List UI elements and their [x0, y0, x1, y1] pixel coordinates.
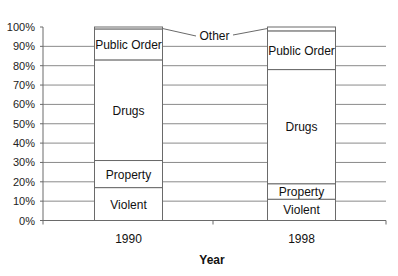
segment-label: Drugs — [112, 104, 144, 118]
x-category-label: 1990 — [115, 232, 142, 246]
bar-segment-other — [268, 27, 336, 31]
leader-line — [233, 29, 268, 36]
y-tick-label: 90% — [13, 40, 35, 52]
segment-label: Public Order — [95, 38, 162, 52]
y-tick-label: 100% — [7, 21, 35, 33]
y-tick-label: 0% — [19, 215, 35, 227]
y-axis: 0%10%20%30%40%50%60%70%80%90%100% — [7, 21, 43, 227]
x-category-label: 1998 — [288, 232, 315, 246]
y-tick-label: 70% — [13, 79, 35, 91]
stacked-bar-chart: 0%10%20%30%40%50%60%70%80%90%100%1990199… — [0, 0, 398, 276]
segment-label: Violent — [283, 203, 320, 217]
y-tick-label: 40% — [13, 137, 35, 149]
x-axis-title: Year — [199, 253, 225, 267]
leader-line — [163, 29, 197, 37]
chart-canvas: 0%10%20%30%40%50%60%70%80%90%100%1990199… — [0, 0, 398, 276]
bar-1990: ViolentPropertyDrugsPublic Order — [95, 27, 163, 221]
y-tick-label: 50% — [13, 118, 35, 130]
segment-label: Public Order — [268, 44, 335, 58]
y-tick-label: 60% — [13, 98, 35, 110]
x-axis: 19901998Year — [43, 221, 386, 268]
y-tick-label: 20% — [13, 176, 35, 188]
other-annotation: Other — [163, 29, 268, 44]
segment-label: Violent — [110, 198, 147, 212]
segment-label: Property — [279, 185, 324, 199]
bar-segment-other — [95, 27, 163, 29]
y-tick-label: 80% — [13, 60, 35, 72]
y-tick-label: 30% — [13, 156, 35, 168]
bar-1998: ViolentPropertyDrugsPublic Order — [268, 27, 336, 221]
segment-label: Property — [106, 168, 151, 182]
y-tick-label: 10% — [13, 195, 35, 207]
segment-label: Drugs — [285, 120, 317, 134]
annotation-label: Other — [199, 29, 229, 43]
